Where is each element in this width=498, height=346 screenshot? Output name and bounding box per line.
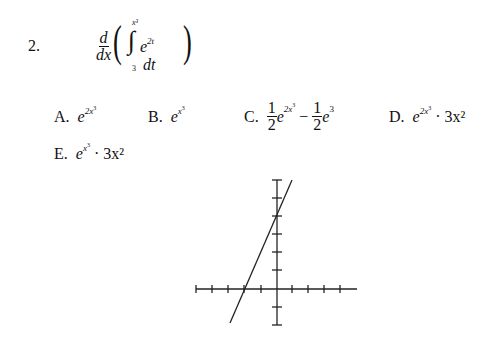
line-graph bbox=[0, 0, 498, 346]
plotted-line bbox=[230, 180, 292, 323]
